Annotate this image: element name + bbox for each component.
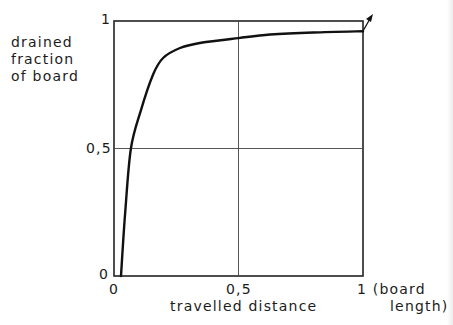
y-axis-title-line1: drained (11, 34, 73, 51)
y-tick-0-5: 0,5 (86, 140, 112, 157)
x-unit-line2: length) (390, 298, 449, 315)
y-tick-1: 1 (101, 11, 111, 28)
x-axis-title: travelled distance (170, 298, 317, 315)
x-tick-0: 0 (109, 281, 119, 298)
y-axis-title-line2: fraction (11, 51, 74, 68)
data-curve (121, 31, 363, 276)
arrow-icon (363, 14, 373, 31)
page-edge-shadow (447, 0, 453, 325)
y-axis-title-line3: of board (11, 68, 79, 85)
y-tick-0: 0 (99, 266, 109, 283)
x-tick-1-unit: 1 (board (357, 281, 426, 298)
x-tick-0-5: 0,5 (226, 281, 252, 298)
